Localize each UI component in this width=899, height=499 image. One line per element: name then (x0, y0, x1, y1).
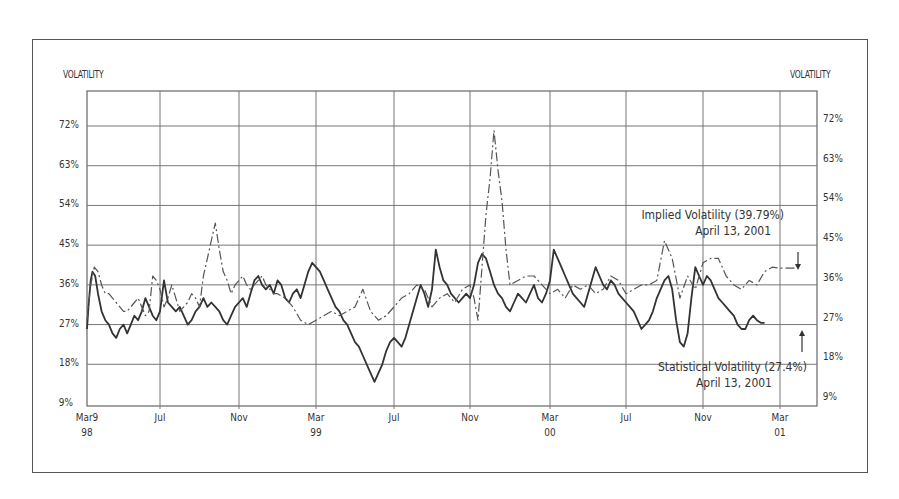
statistical-volatility-annotation: Statistical Volatility (27.4%) April 13,… (658, 359, 807, 391)
implied-annotation-line1: Implied Volatility (39.79%) (641, 207, 784, 223)
implied-volatility-annotation: Implied Volatility (39.79%) April 13, 20… (641, 207, 784, 239)
stat-arrowhead-icon (799, 330, 805, 336)
stat-annotation-line2: April 13, 2001 (658, 375, 807, 391)
implied-arrowhead-icon (795, 264, 801, 270)
stat-annotation-line1: Statistical Volatility (27.4%) (658, 359, 807, 375)
line-chart-plot (0, 0, 899, 499)
implied-annotation-line2: April 13, 2001 (641, 223, 784, 239)
